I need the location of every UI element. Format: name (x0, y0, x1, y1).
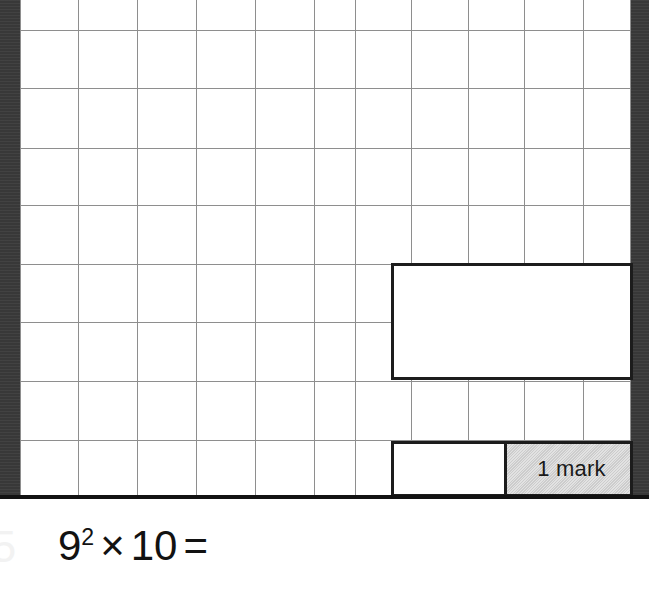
answer-box-main[interactable] (391, 263, 633, 380)
question-number: 5 (0, 517, 20, 577)
expression-operand: 10 (131, 522, 178, 569)
squared-answer-grid[interactable] (20, 0, 630, 497)
question-expression: 92×10= (58, 525, 214, 567)
grid-line-horizontal-2 (20, 148, 630, 149)
expression-exponent: 2 (81, 524, 94, 550)
grid-line-vertical-11 (630, 0, 631, 497)
mark-badge-label: 1 mark (531, 458, 605, 480)
grid-line-vertical-4 (255, 0, 256, 497)
grid-line-vertical-5 (314, 0, 315, 497)
grid-line-vertical-8 (468, 0, 469, 497)
grid-line-vertical-1 (78, 0, 79, 497)
expression-operator: × (94, 522, 131, 569)
exam-paper-page: 1 mark 5 92×10= (0, 0, 649, 590)
grid-line-horizontal-3 (20, 205, 630, 206)
grid-line-vertical-6 (355, 0, 356, 497)
grid-line-vertical-9 (524, 0, 525, 497)
expression-equals: = (177, 522, 214, 569)
grid-line-vertical-0 (20, 0, 21, 497)
grid-line-vertical-2 (137, 0, 138, 497)
grid-line-horizontal-0 (20, 30, 630, 31)
grid-line-vertical-3 (196, 0, 197, 497)
grid-line-vertical-7 (411, 0, 412, 497)
grid-line-vertical-10 (583, 0, 584, 497)
grid-line-horizontal-6 (20, 381, 630, 382)
grid-line-horizontal-1 (20, 88, 630, 89)
expression-base: 9 (58, 522, 81, 569)
mark-badge: 1 mark (504, 441, 633, 497)
question-row: 5 92×10= (0, 499, 649, 590)
